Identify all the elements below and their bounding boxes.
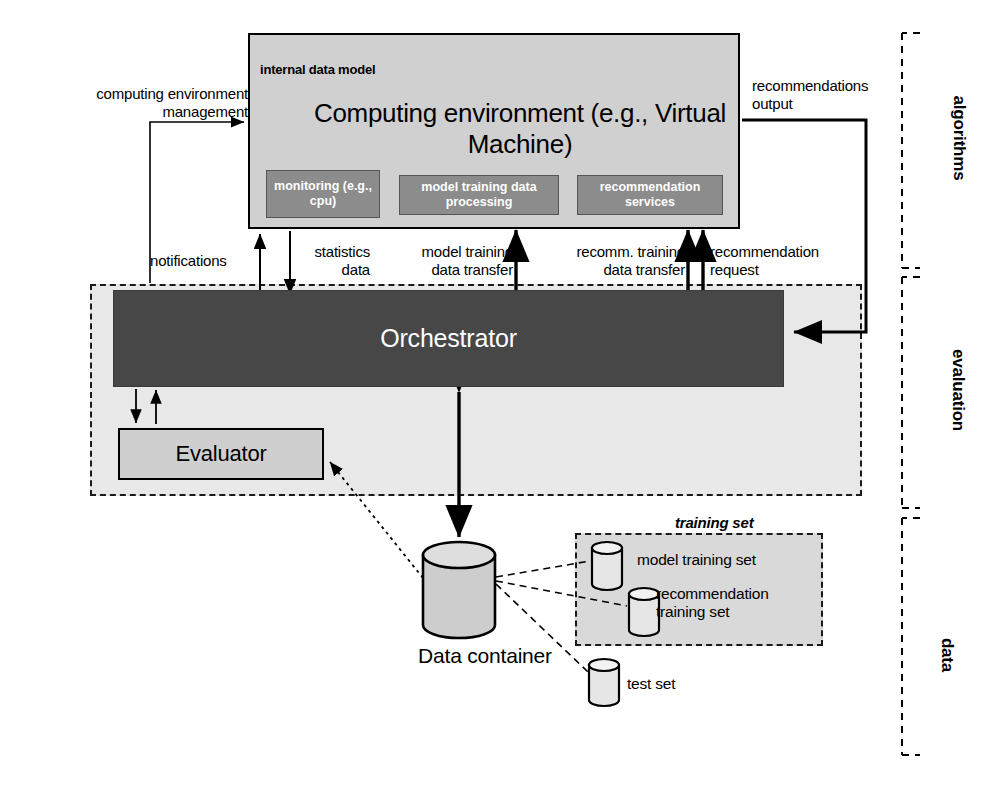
service-monitoring[interactable]: monitoring (e.g., cpu) bbox=[266, 170, 380, 218]
section-bracket-data bbox=[902, 518, 920, 755]
recommendation-training-set-label: recommendation training set bbox=[656, 585, 769, 621]
internal-data-model-label: internal data model bbox=[260, 62, 375, 77]
section-label-data: data bbox=[937, 638, 957, 672]
service-model-training-data-processing[interactable]: model training data processing bbox=[399, 175, 559, 215]
service-recommendation-services[interactable]: recommendation services bbox=[577, 175, 723, 215]
training-set-title: training set bbox=[672, 514, 756, 531]
section-bracket-evaluation bbox=[902, 277, 920, 508]
label-recommendations-output: recommendations output bbox=[752, 77, 882, 113]
orchestrator-box[interactable]: Orchestrator bbox=[113, 290, 784, 387]
model-training-set-label: model training set bbox=[637, 551, 756, 569]
label-model-training-data-transfer: model training data transfer bbox=[375, 243, 513, 279]
data-container-label: Data container bbox=[375, 644, 595, 668]
label-recomm-training-data-transfer: recomm. training data transfer bbox=[545, 243, 685, 279]
computing-environment-title: Computing environment (e.g., Virtual Mac… bbox=[310, 98, 730, 160]
label-notifications: notifications bbox=[150, 252, 227, 270]
section-label-algorithms: algorithms bbox=[949, 96, 969, 181]
section-bracket-algorithms bbox=[902, 33, 920, 268]
diagram-canvas: internal data model Computing environmen… bbox=[0, 0, 1005, 790]
test-set-label: test set bbox=[627, 675, 675, 693]
label-computing-environment-management: computing environment management bbox=[36, 85, 248, 121]
label-statistics-data: statistics data bbox=[290, 243, 370, 279]
data-container-cylinder bbox=[423, 542, 495, 638]
section-label-evaluation: evaluation bbox=[948, 349, 968, 431]
evaluator-box[interactable]: Evaluator bbox=[118, 428, 324, 480]
label-recommendation-request: recommendation request bbox=[710, 243, 840, 279]
